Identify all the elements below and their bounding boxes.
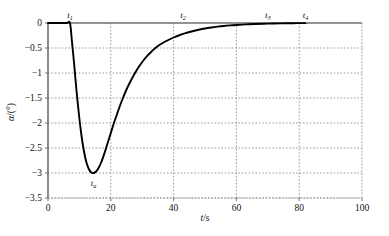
x-tick-label-4: 80 bbox=[294, 203, 304, 213]
y-tick-label-1: −0.5 bbox=[25, 43, 42, 53]
y-tick-label-5: −2.5 bbox=[25, 143, 42, 153]
y-tick-label-7: −3.5 bbox=[25, 193, 42, 203]
annotation-t4: t4 bbox=[303, 10, 309, 21]
y-tick-label-4: −2 bbox=[32, 118, 42, 128]
y-axis-title: α/(°) bbox=[6, 103, 17, 121]
y-tick-label-3: −1.5 bbox=[25, 93, 42, 103]
axis-ticks bbox=[45, 23, 362, 201]
x-axis-tick-labels: 020406080100 bbox=[46, 203, 370, 213]
y-axis-tick-labels: 0−0.5−1−1.5−2−2.5−3−3.5 bbox=[25, 18, 42, 203]
x-tick-label-5: 100 bbox=[355, 203, 370, 213]
y-tick-label-0: 0 bbox=[37, 18, 42, 28]
x-tick-label-2: 40 bbox=[169, 203, 179, 213]
x-tick-label-0: 0 bbox=[46, 203, 51, 213]
chart-figure: 0−0.5−1−1.5−2−2.5−3−3.5 020406080100 t1t… bbox=[0, 0, 389, 236]
x-tick-label-3: 60 bbox=[232, 203, 242, 213]
y-tick-label-2: −1 bbox=[32, 68, 42, 78]
x-tick-label-1: 20 bbox=[106, 203, 116, 213]
annotation-t1: t1 bbox=[67, 10, 73, 21]
annotation-t2: t2 bbox=[180, 10, 186, 21]
y-tick-label-6: −3 bbox=[32, 168, 42, 178]
alpha-vs-time-line-chart: 0−0.5−1−1.5−2−2.5−3−3.5 020406080100 t1t… bbox=[0, 0, 389, 236]
alpha-curve bbox=[48, 22, 305, 173]
annotation-ta: ta bbox=[91, 178, 97, 189]
annotation-t3: t3 bbox=[265, 10, 271, 21]
x-axis-title: t/s bbox=[201, 213, 210, 223]
time-annotations: t1tat2t3t4 bbox=[67, 10, 308, 189]
